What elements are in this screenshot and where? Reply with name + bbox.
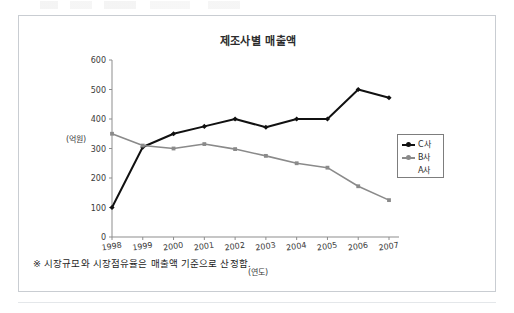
legend-label-c: C사 xyxy=(418,141,431,149)
svg-text:200: 200 xyxy=(91,174,106,183)
svg-text:400: 400 xyxy=(91,115,106,124)
cropped-text-ghost xyxy=(40,1,440,9)
svg-text:2004: 2004 xyxy=(286,241,307,253)
svg-text:1999: 1999 xyxy=(132,241,153,253)
legend-line-marker-icon-c xyxy=(402,140,415,149)
svg-text:1998: 1998 xyxy=(101,241,122,253)
svg-text:2006: 2006 xyxy=(347,241,368,253)
legend-item-a[interactable]: A사 xyxy=(398,164,443,177)
legend-line-marker-icon-b xyxy=(402,153,415,162)
footnote-text: ※ 시장규모와 시장점유율은 매출액 기준으로 산정함. xyxy=(33,256,251,270)
svg-text:100: 100 xyxy=(91,204,106,213)
legend-item-c[interactable]: C사 xyxy=(398,138,443,151)
cropped-text-strip xyxy=(0,0,514,14)
legend-label-a: A사 xyxy=(418,167,430,175)
legend-line-marker-icon-a xyxy=(402,166,415,175)
svg-text:2002: 2002 xyxy=(224,241,245,253)
y-axis-unit-label: (억원) xyxy=(66,133,86,144)
svg-text:2007: 2007 xyxy=(378,241,399,253)
svg-text:2003: 2003 xyxy=(255,241,276,253)
svg-text:0: 0 xyxy=(101,233,106,242)
legend-label-b: B사 xyxy=(418,154,431,162)
svg-text:2005: 2005 xyxy=(316,241,337,253)
legend-item-b[interactable]: B사 xyxy=(398,151,443,164)
svg-text:600: 600 xyxy=(91,56,106,65)
svg-text:500: 500 xyxy=(91,86,106,95)
svg-text:2000: 2000 xyxy=(163,241,184,253)
bottom-divider xyxy=(18,302,496,303)
figure-container: 제조사별 매출액 0100200300400500600199819992000… xyxy=(18,15,496,292)
svg-text:2001: 2001 xyxy=(193,241,214,253)
chart-legend: C사 B사 A사 xyxy=(397,134,444,178)
svg-text:300: 300 xyxy=(91,145,106,154)
